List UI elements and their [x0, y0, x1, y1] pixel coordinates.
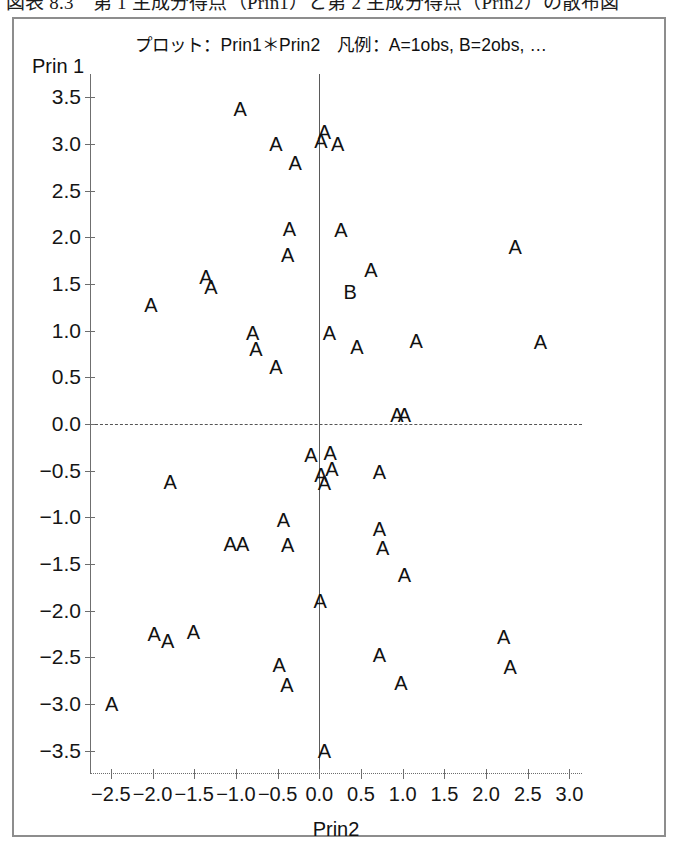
- scatter-point-marker: A: [334, 220, 347, 240]
- x-axis-tick-label: 0.5: [347, 783, 375, 806]
- x-axis-tick-label: 0.0: [305, 783, 333, 806]
- y-axis-tick: [85, 377, 95, 378]
- scatter-point-marker: A: [331, 134, 344, 154]
- y-axis-tick: [85, 191, 95, 192]
- scatter-point-marker: A: [304, 445, 317, 465]
- x-axis-tick: [403, 769, 404, 779]
- scatter-point-marker: A: [350, 337, 363, 357]
- x-axis-tick-label: 1.0: [389, 783, 417, 806]
- x-axis-tick: [236, 769, 237, 779]
- scatter-point-marker: A: [236, 534, 249, 554]
- scatter-point-marker: A: [280, 675, 293, 695]
- y-axis-tick: [85, 284, 95, 285]
- x-axis-tick-label: −2.5: [91, 783, 130, 806]
- y-axis-tick-label: 1.5: [52, 272, 81, 296]
- scatter-point-marker: A: [249, 339, 262, 359]
- y-axis-tick-label: 0.0: [52, 412, 81, 436]
- scatter-point-marker: A: [283, 219, 296, 239]
- book-caption-strip: 図表 8.3 第 1 主成分得点（Prin1）と第 2 主成分得点（Prin2）…: [0, 0, 679, 15]
- scatter-point-marker: A: [273, 655, 286, 675]
- x-axis-tick: [278, 769, 279, 779]
- y-axis-tick-label: −1.0: [40, 505, 81, 529]
- scatter-point-marker: A: [187, 622, 200, 642]
- plot-frame: プロット：Prin1＊Prin2 凡例：A=1obs, B=2obs, … Pr…: [12, 17, 666, 837]
- x-axis-tick: [319, 769, 320, 779]
- y-axis-tick-label: −1.5: [40, 552, 81, 576]
- scatter-point-marker: B: [344, 282, 357, 302]
- scatter-point-marker: A: [504, 657, 517, 677]
- y-axis-tick: [85, 704, 95, 705]
- scatter-point-marker: A: [318, 741, 331, 761]
- y-axis-tick: [85, 564, 95, 565]
- y-axis-tick: [85, 97, 95, 98]
- scatter-point-marker: A: [318, 473, 331, 493]
- x-axis-tick: [528, 769, 529, 779]
- scatter-point-marker: A: [394, 673, 407, 693]
- scatter-point-marker: A: [313, 591, 326, 611]
- scatter-point-marker: A: [281, 535, 294, 555]
- x-axis-tick-label: 1.5: [431, 783, 459, 806]
- scatter-point-marker: A: [373, 462, 386, 482]
- y-axis-tick: [85, 517, 95, 518]
- scatter-point-marker: A: [376, 538, 389, 558]
- y-axis-tick-label: 3.0: [52, 132, 81, 156]
- x-axis-tick: [194, 769, 195, 779]
- x-axis-title: Prin2: [90, 818, 582, 841]
- y-axis-tick: [85, 331, 95, 332]
- scatter-point-marker: A: [148, 624, 161, 644]
- figure-page: 図表 8.3 第 1 主成分得点（Prin1）と第 2 主成分得点（Prin2）…: [0, 0, 679, 854]
- x-axis-tick: [153, 769, 154, 779]
- scatter-point-marker: A: [281, 245, 294, 265]
- scatter-point-marker: A: [373, 645, 386, 665]
- scatter-point-marker: A: [534, 332, 547, 352]
- scatter-point-marker: A: [204, 277, 217, 297]
- plot-title: プロット：Prin1＊Prin2 凡例：A=1obs, B=2obs, …: [14, 31, 668, 56]
- y-axis-tick: [85, 657, 95, 658]
- y-axis-tick-label: −3.5: [40, 739, 81, 763]
- scatter-point-marker: A: [269, 134, 282, 154]
- zero-vertical-reference-line: [319, 74, 320, 774]
- y-axis-tick-label: 2.5: [52, 179, 81, 203]
- y-axis-tick-label: 0.5: [52, 365, 81, 389]
- y-axis-tick-label: 1.0: [52, 319, 81, 343]
- x-axis-tick-label: 2.0: [472, 783, 500, 806]
- scatter-point-marker: A: [398, 405, 411, 425]
- y-axis-tick-label: 2.0: [52, 225, 81, 249]
- y-axis-tick-label: −3.0: [40, 692, 81, 716]
- x-axis-tick-label: 3.0: [556, 783, 584, 806]
- scatter-point-marker: A: [497, 627, 510, 647]
- scatter-point-marker: A: [277, 510, 290, 530]
- y-axis-tick: [85, 471, 95, 472]
- scatter-point-marker: A: [364, 260, 377, 280]
- x-axis-tick-label: 2.5: [514, 783, 542, 806]
- y-axis-tick: [85, 424, 95, 425]
- zero-horizontal-reference-line: [90, 424, 582, 425]
- y-axis-tick: [85, 144, 95, 145]
- scatter-point-marker: A: [163, 472, 176, 492]
- scatter-point-marker: A: [223, 534, 236, 554]
- scatter-point-marker: A: [288, 153, 301, 173]
- plot-axes-area: Prin 1 3.53.02.52.01.51.00.50.0−0.5−1.0−…: [90, 74, 582, 774]
- scatter-point-marker: A: [233, 99, 246, 119]
- scatter-point-marker: A: [144, 295, 157, 315]
- book-caption: 図表 8.3 第 1 主成分得点（Prin1）と第 2 主成分得点（Prin2）…: [6, 0, 620, 14]
- x-axis-tick: [444, 769, 445, 779]
- x-axis-tick: [569, 769, 570, 779]
- x-axis-tick-label: −2.0: [133, 783, 172, 806]
- scatter-point-marker: A: [269, 357, 282, 377]
- x-axis-tick-label: −1.5: [174, 783, 213, 806]
- y-axis-tick-label: −2.0: [40, 599, 81, 623]
- scatter-point-marker: A: [323, 323, 336, 343]
- scatter-point-marker: A: [161, 631, 174, 651]
- y-axis-tick: [85, 751, 95, 752]
- scatter-point-marker: A: [373, 519, 386, 539]
- scatter-point-marker: A: [509, 237, 522, 257]
- x-axis-spine: [90, 773, 582, 774]
- y-axis-tick: [85, 237, 95, 238]
- y-axis-tick-label: 3.5: [52, 85, 81, 109]
- x-axis-tick: [486, 769, 487, 779]
- scatter-point-marker: A: [409, 331, 422, 351]
- y-axis-title: Prin 1: [32, 55, 84, 78]
- x-axis-tick: [361, 769, 362, 779]
- x-axis-tick-label: −1.0: [216, 783, 255, 806]
